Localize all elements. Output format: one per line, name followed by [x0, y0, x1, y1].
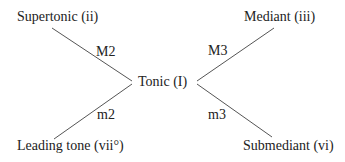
edge-label-m2-major: M2	[96, 45, 115, 59]
edge-label-m3-major: M3	[208, 44, 227, 58]
edge-supertonic	[52, 28, 132, 81]
node-submediant: Submediant (vi)	[243, 139, 334, 153]
node-tonic: Tonic (I)	[138, 75, 187, 89]
node-mediant: Mediant (iii)	[244, 10, 315, 24]
edge-leading-tone	[54, 84, 132, 139]
node-leading-tone: Leading tone (vii°)	[17, 139, 124, 153]
edge-label-m2-minor: m2	[97, 108, 115, 122]
node-supertonic: Supertonic (ii)	[17, 10, 98, 24]
edge-label-m3-minor: m3	[208, 108, 226, 122]
